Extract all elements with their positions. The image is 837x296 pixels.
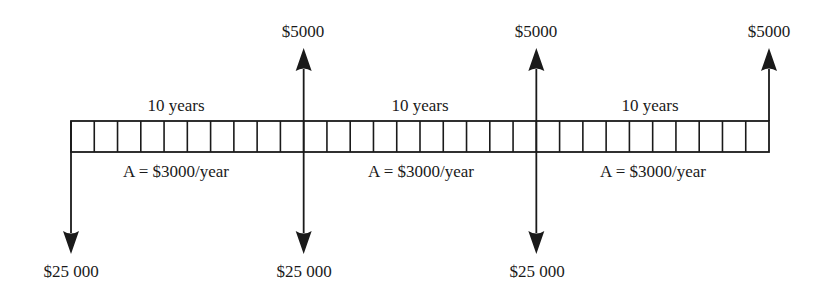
cash-outflow-arrowhead-icon: [296, 231, 312, 254]
cash-outflow-arrowhead-icon: [528, 231, 544, 254]
annuity-label-3: A = $3000/year: [600, 163, 706, 180]
cash-inflow-label-year-30: $5000: [748, 23, 791, 40]
timeline-bar: [71, 121, 769, 152]
cash-outflow-label-year-20: $25 000: [509, 263, 564, 280]
segment-duration-label-2: 10 years: [391, 97, 448, 114]
annuity-label-2: A = $3000/year: [368, 163, 474, 180]
cash-flow-diagram-graphic: [0, 0, 837, 296]
cash-outflow-label-year-10: $25 000: [276, 263, 331, 280]
cash-inflow-arrowhead-icon: [528, 48, 544, 71]
annuity-label-1: A = $3000/year: [123, 163, 229, 180]
cash-flow-diagram: $5000 $5000 $5000 10 years 10 years 10 y…: [0, 0, 837, 296]
segment-duration-label-3: 10 years: [621, 97, 678, 114]
segment-duration-label-1: 10 years: [147, 97, 204, 114]
cash-outflow-label-year-0: $25 000: [43, 263, 98, 280]
cash-outflow-arrowhead-icon: [63, 231, 79, 254]
cash-inflow-label-year-20: $5000: [515, 23, 558, 40]
cash-inflow-arrowhead-icon: [761, 48, 777, 71]
cash-inflow-arrowhead-icon: [296, 48, 312, 71]
cash-inflow-label-year-10: $5000: [282, 23, 325, 40]
